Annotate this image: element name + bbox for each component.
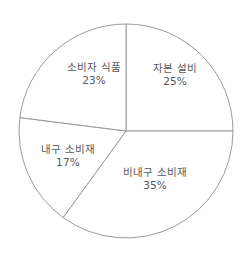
pie-chart: 자본 설비25%비내구 소비재35%내구 소비재17%소비자 식품23% [0, 0, 248, 262]
pie-slice [20, 24, 126, 131]
pie-slice-group [19, 24, 233, 238]
pie-slice [126, 24, 233, 131]
pie-chart-svg [0, 0, 248, 262]
